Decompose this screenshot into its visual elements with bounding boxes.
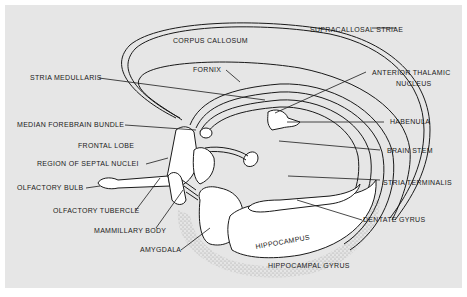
label-habenula: HABENULA (390, 118, 430, 125)
label-olfactory-tubercle: OLFACTORY TUBERCLE (53, 207, 140, 214)
label-corpus-callosum: CORPUS CALLOSUM (173, 37, 248, 44)
label-mammillary-body: MAMMILLARY BODY (94, 227, 166, 234)
leader-stria-medullaris (99, 78, 265, 100)
label-hippocampal-gyrus: HIPPOCAMPAL GYRUS (268, 262, 350, 269)
septal-nuclei-shape (193, 148, 214, 184)
limbic-system-diagram: CORPUS CALLOSUM SUPRACALLOSAL STRIAE FOR… (0, 0, 467, 297)
label-supracallosal-striae: SUPRACALLOSAL STRIAE (310, 26, 403, 33)
olfactory-bulb-shape (98, 176, 170, 189)
label-region-septal-nuclei: REGION OF SEPTAL NUCLEI (37, 160, 139, 167)
septal-node (200, 128, 212, 138)
label-stria-medullaris: STRIA MEDULLARIS (30, 74, 102, 81)
label-median-forebrain-bundle: MEDIAN FOREBRAIN BUNDLE (17, 121, 124, 128)
leader-olfactory-bulb (86, 186, 100, 188)
label-anterior-thalamic-nucleus: NUCLEUS (396, 80, 432, 87)
leader-fornix (226, 70, 240, 82)
label-fornix: FORNIX (193, 66, 221, 73)
leader-septal-nuclei (146, 158, 168, 164)
leader-stria-terminalis (288, 176, 380, 180)
label-brain-stem: BRAIN STEM (387, 147, 433, 154)
anterior-thalamic-nucleus-shape (268, 110, 300, 130)
label-anterior-thalamic: ANTERIOR THALAMIC (372, 69, 450, 76)
label-olfactory-bulb: OLFACTORY BULB (17, 184, 83, 191)
label-amygdala: AMYGDALA (140, 246, 181, 253)
label-dentate-gyrus: DENTATE GYRUS (363, 216, 425, 223)
label-frontal-lobe: FRONTAL LOBE (78, 142, 134, 149)
leader-anterior-thalamic (275, 72, 366, 113)
label-stria-terminalis: STRIA TERMINALIS (383, 179, 452, 186)
leader-brain-stem (279, 141, 380, 150)
